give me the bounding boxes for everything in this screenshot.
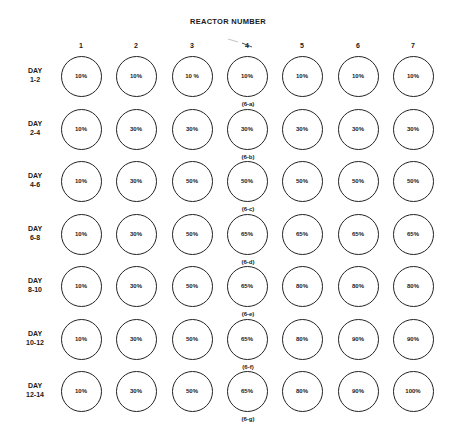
percentage-value: 30% xyxy=(130,126,142,132)
day-label: DAY8-10 xyxy=(18,277,52,294)
reactor-circle: 65% xyxy=(393,214,434,255)
percentage-value: 30% xyxy=(130,336,142,342)
reactor-circle: 30% xyxy=(116,109,157,150)
column-number-2: 2 xyxy=(126,42,146,49)
column-number-6: 6 xyxy=(348,42,368,49)
reactor-circle: 65% xyxy=(227,371,268,412)
percentage-value: 50% xyxy=(352,178,364,184)
day-word: DAY xyxy=(18,277,52,286)
day-word: DAY xyxy=(18,330,52,339)
reactor-circle: 10% xyxy=(116,56,157,97)
percentage-value: 90% xyxy=(352,336,364,342)
day-label: DAY1-2 xyxy=(18,67,52,84)
percentage-value: 30% xyxy=(407,126,419,132)
percentage-value: 10% xyxy=(75,336,87,342)
reactor-circle: 30% xyxy=(116,214,157,255)
percentage-value: 10% xyxy=(75,126,87,132)
percentage-value: 10% xyxy=(241,73,253,79)
diagram-title: REACTOR NUMBER xyxy=(0,17,456,26)
reactor-circle: 10% xyxy=(61,161,102,202)
percentage-value: 50% xyxy=(407,178,419,184)
percentage-value: 90% xyxy=(407,336,419,342)
day-word: DAY xyxy=(18,382,52,391)
reactor-circle: 50% xyxy=(172,214,213,255)
percentage-value: 50% xyxy=(186,178,198,184)
percentage-value: 30% xyxy=(296,126,308,132)
day-word: DAY xyxy=(18,67,52,76)
percentage-value: 80% xyxy=(296,283,308,289)
day-range: 2-4 xyxy=(18,129,52,138)
reactor-circle: 30% xyxy=(393,109,434,150)
percentage-value: 50% xyxy=(186,283,198,289)
percentage-value: 10% xyxy=(407,73,419,79)
day-label: DAY6-8 xyxy=(18,225,52,242)
day-label: DAY12-14 xyxy=(18,382,52,399)
row-sublabel: (6-e) xyxy=(228,311,268,317)
percentage-value: 10 % xyxy=(185,73,199,79)
row-sublabel: (6-c) xyxy=(228,206,268,212)
day-range: 4-6 xyxy=(18,181,52,190)
percentage-value: 65% xyxy=(241,336,253,342)
row-sublabel: (6-f) xyxy=(228,364,268,370)
reactor-circle: 10% xyxy=(61,109,102,150)
reactor-circle: 90% xyxy=(338,371,379,412)
percentage-value: 80% xyxy=(296,336,308,342)
percentage-value: 80% xyxy=(296,388,308,394)
column-number-1: 1 xyxy=(71,42,91,49)
reactor-circle: 10% xyxy=(393,56,434,97)
reactor-circle: 80% xyxy=(393,266,434,307)
reactor-circle: 65% xyxy=(227,266,268,307)
percentage-value: 50% xyxy=(186,231,198,237)
reactor-circle: 80% xyxy=(282,319,323,360)
day-word: DAY xyxy=(18,120,52,129)
day-label: DAY4-6 xyxy=(18,172,52,189)
row-sublabel: (6-b) xyxy=(228,154,268,160)
percentage-value: 10% xyxy=(75,73,87,79)
reactor-circle: 80% xyxy=(282,266,323,307)
column-number-5: 5 xyxy=(292,42,312,49)
percentage-value: 30% xyxy=(130,231,142,237)
percentage-value: 90% xyxy=(352,388,364,394)
reactor-circle: 50% xyxy=(172,319,213,360)
percentage-value: 50% xyxy=(186,336,198,342)
day-label: DAY2-4 xyxy=(18,120,52,137)
column-number-7: 7 xyxy=(403,42,423,49)
row-sublabel: (6-g) xyxy=(228,416,268,422)
reactor-circle: 30% xyxy=(172,109,213,150)
reactor-circle: 80% xyxy=(282,371,323,412)
day-label: DAY10-12 xyxy=(18,330,52,347)
reactor-circle: 10% xyxy=(282,56,323,97)
percentage-value: 100% xyxy=(405,388,420,394)
reactor-circle: 90% xyxy=(338,319,379,360)
percentage-value: 30% xyxy=(130,388,142,394)
reactor-circle: 50% xyxy=(172,161,213,202)
percentage-value: 65% xyxy=(352,231,364,237)
row-sublabel: (6-d) xyxy=(228,259,268,265)
day-range: 10-12 xyxy=(18,339,52,348)
reactor-circle: 30% xyxy=(116,161,157,202)
day-range: 8-10 xyxy=(18,286,52,295)
percentage-value: 50% xyxy=(241,178,253,184)
reactor-circle: 10% xyxy=(61,266,102,307)
reactor-circle: 30% xyxy=(338,109,379,150)
percentage-value: 10% xyxy=(75,283,87,289)
percentage-value: 10% xyxy=(296,73,308,79)
percentage-value: 65% xyxy=(296,231,308,237)
percentage-value: 80% xyxy=(352,283,364,289)
percentage-value: 30% xyxy=(352,126,364,132)
reactor-circle: 50% xyxy=(282,161,323,202)
reactor-circle: 30% xyxy=(116,371,157,412)
reactor-circle: 30% xyxy=(116,319,157,360)
percentage-value: 65% xyxy=(241,231,253,237)
reactor-circle: 10 % xyxy=(172,56,213,97)
reactor-circle: 10% xyxy=(338,56,379,97)
day-word: DAY xyxy=(18,172,52,181)
reactor-circle: 65% xyxy=(338,214,379,255)
reactor-circle: 50% xyxy=(338,161,379,202)
percentage-value: 65% xyxy=(241,388,253,394)
day-range: 12-14 xyxy=(18,391,52,400)
reactor-circle: 65% xyxy=(227,214,268,255)
percentage-value: 65% xyxy=(407,231,419,237)
reactor-circle: 10% xyxy=(61,56,102,97)
reactor-circle: 50% xyxy=(227,161,268,202)
